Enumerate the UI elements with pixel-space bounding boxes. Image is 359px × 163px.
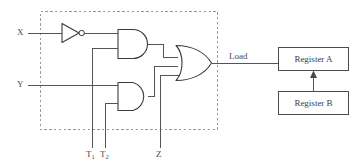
input-label-t2: T2 <box>100 150 109 159</box>
wire-t2-to-and-lower <box>105 103 118 148</box>
register-b-label: Register B <box>278 99 349 108</box>
input-label-t2-text: T <box>100 149 106 159</box>
input-label-t1-text: T <box>86 149 92 159</box>
and-gate-lower <box>118 83 144 111</box>
wire-and-lower-to-or <box>148 67 179 97</box>
not-gate-triangle <box>62 24 79 43</box>
not-gate-bubble-icon <box>79 30 84 35</box>
input-label-t1: T1 <box>86 150 95 159</box>
signal-label-load: Load <box>229 52 248 61</box>
circuit-diagram: X Y T1 T2 Z Load Register A Register B <box>0 0 359 163</box>
or-gate <box>176 46 212 81</box>
wire-z-to-or <box>160 75 180 148</box>
input-label-t2-subscript: 2 <box>106 153 109 160</box>
and-gate-upper <box>118 30 148 59</box>
input-label-t1-subscript: 1 <box>92 153 95 160</box>
register-a-label: Register A <box>278 55 349 64</box>
wire-and-upper-to-or <box>148 44 179 57</box>
arrow-up-icon <box>310 71 317 79</box>
input-label-z: Z <box>156 150 162 159</box>
circuit-svg <box>0 0 359 163</box>
input-label-x: X <box>17 28 24 37</box>
input-label-y: Y <box>17 80 24 89</box>
